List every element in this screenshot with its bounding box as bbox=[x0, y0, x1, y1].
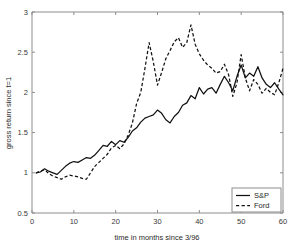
y-tick-label: 2 bbox=[24, 88, 28, 97]
chart-figure: 0.511.522.53 0102030405060 time in month… bbox=[0, 0, 295, 248]
y-tick-label: 1.5 bbox=[18, 128, 28, 137]
x-tick-label: 0 bbox=[30, 217, 34, 226]
legend-label-ford: Ford bbox=[254, 201, 269, 210]
x-axis-title: time in months since 3/96 bbox=[114, 233, 199, 242]
y-tick-label: 2.5 bbox=[18, 48, 28, 57]
y-tick-label: 0.5 bbox=[18, 209, 28, 218]
x-tick-label: 10 bbox=[70, 217, 78, 226]
x-tick-label: 40 bbox=[195, 217, 203, 226]
legend-label-sp: S&P bbox=[254, 191, 269, 200]
x-tick-label: 30 bbox=[153, 217, 161, 226]
chart-legend[interactable]: S&P Ford bbox=[232, 188, 281, 212]
x-tick-label: 50 bbox=[237, 217, 245, 226]
x-tick-label: 20 bbox=[111, 217, 119, 226]
x-tick-label: 60 bbox=[279, 217, 287, 226]
y-tick-label: 1 bbox=[24, 168, 28, 177]
y-tick-label: 3 bbox=[24, 8, 28, 17]
line-chart: 0.511.522.53 0102030405060 time in month… bbox=[0, 0, 295, 248]
y-axis-title: gross return since t=1 bbox=[4, 77, 13, 149]
plot-background bbox=[32, 12, 283, 213]
